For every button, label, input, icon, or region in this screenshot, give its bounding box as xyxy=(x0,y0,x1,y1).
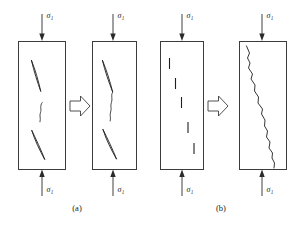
crack-coalescence-figure: σ₁ σ₁ σ₁ xyxy=(0,0,300,228)
stress-label-top: σ₁ xyxy=(118,11,125,20)
stress-label-bottom: σ₁ xyxy=(47,185,54,194)
specimen-body xyxy=(19,42,66,170)
specimen-b-initial: σ₁ σ₁ xyxy=(161,11,204,196)
load-arrow-bottom xyxy=(110,170,115,197)
load-arrow-top xyxy=(179,14,184,41)
specimen-a-coalesced: σ₁ σ₁ xyxy=(93,11,137,196)
stress-label-bottom: σ₁ xyxy=(267,185,274,194)
specimen-a-initial: σ₁ σ₁ xyxy=(19,11,66,196)
load-arrow-top xyxy=(110,14,115,41)
specimen-body xyxy=(93,42,137,170)
block-right-arrow-icon xyxy=(208,96,228,116)
stress-label-top: σ₁ xyxy=(47,11,54,20)
load-arrow-top xyxy=(259,14,264,41)
panel-label-b: (b) xyxy=(216,203,226,213)
panel-a: σ₁ σ₁ σ₁ xyxy=(19,11,137,213)
stress-label-top: σ₁ xyxy=(187,11,194,20)
block-right-arrow-icon xyxy=(70,96,90,116)
stress-label-bottom: σ₁ xyxy=(118,185,125,194)
load-arrow-bottom xyxy=(179,170,184,197)
load-arrow-bottom xyxy=(259,170,264,197)
load-arrow-top xyxy=(39,14,44,41)
specimen-body xyxy=(240,42,287,170)
panel-label-a: (a) xyxy=(72,203,82,213)
stress-label-top: σ₁ xyxy=(267,11,274,20)
specimen-b-coalesced: σ₁ σ₁ xyxy=(240,11,287,196)
load-arrow-bottom xyxy=(39,170,44,197)
stress-label-bottom: σ₁ xyxy=(187,185,194,194)
panel-b: σ₁ σ₁ σ₁ xyxy=(161,11,287,213)
